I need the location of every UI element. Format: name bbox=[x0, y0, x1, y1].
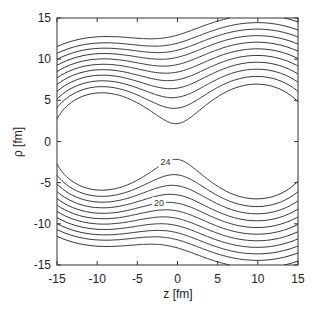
contour-line bbox=[57, 84, 298, 199]
y-tick-label: -15 bbox=[34, 258, 52, 272]
y-axis-label: ρ [fm] bbox=[11, 127, 25, 157]
x-tick-label: 15 bbox=[291, 272, 305, 286]
x-tick-label: -15 bbox=[48, 272, 66, 286]
contour-labels: 2420 bbox=[152, 156, 172, 208]
plot-frame bbox=[57, 18, 298, 265]
x-tick-label: 5 bbox=[214, 272, 221, 286]
y-tick-label: 10 bbox=[38, 52, 52, 66]
y-tick-label: -5 bbox=[40, 176, 51, 190]
contour-lines bbox=[57, 18, 298, 265]
contour-line bbox=[57, 18, 298, 265]
x-tick-label: 10 bbox=[251, 272, 265, 286]
x-tick-label: -10 bbox=[88, 272, 106, 286]
y-tick-label: -10 bbox=[34, 217, 52, 231]
contour-value-label: 20 bbox=[154, 198, 164, 208]
contour-line bbox=[57, 23, 298, 261]
y-tick-label: 5 bbox=[44, 93, 51, 107]
contour-line bbox=[57, 76, 298, 206]
y-tick-label: 15 bbox=[38, 11, 52, 25]
contour-line bbox=[57, 69, 298, 214]
x-axis-ticks: -15-10-5051015 bbox=[48, 18, 305, 286]
contour-line bbox=[57, 36, 298, 248]
y-tick-label: 0 bbox=[44, 135, 51, 149]
contour-chart: -15-10-5051015 -15-10-5051015 2420 z [fm… bbox=[0, 0, 317, 314]
contour-value-label: 24 bbox=[160, 157, 170, 167]
x-axis-label: z [fm] bbox=[163, 287, 192, 301]
x-tick-label: 0 bbox=[174, 272, 181, 286]
contour-line bbox=[57, 62, 298, 221]
x-tick-label: -5 bbox=[132, 272, 143, 286]
y-axis-ticks: -15-10-5051015 bbox=[34, 11, 298, 272]
